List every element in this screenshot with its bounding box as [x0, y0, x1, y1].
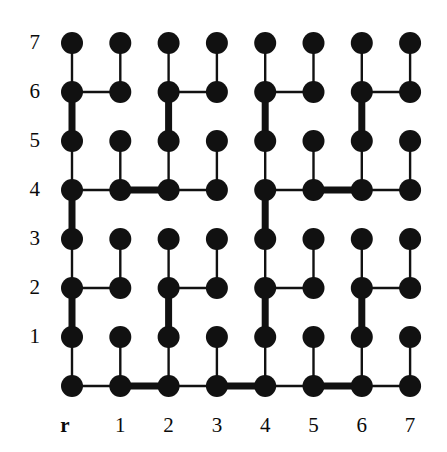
graph-node-c3-r2 [206, 277, 228, 299]
graph-node-c6-r5 [351, 130, 373, 152]
graph-node-c3-r1 [206, 326, 228, 348]
graph-node-c0-r4 [61, 179, 83, 201]
graph-node-c7-r2 [399, 277, 421, 299]
row-axis-label-1: 1 [18, 326, 40, 347]
graph-node-c0-r6 [61, 81, 83, 103]
row-axis-label-7: 7 [18, 32, 40, 53]
graph-node-c4-r0 [254, 375, 276, 397]
graph-node-c6-r4 [351, 179, 373, 201]
graph-node-c1-r5 [109, 130, 131, 152]
graph-node-c3-r3 [206, 228, 228, 250]
graph-node-c6-r7 [351, 32, 373, 54]
column-axis-label-1: 1 [107, 415, 133, 436]
column-axis-label-2: 2 [156, 415, 182, 436]
graph-node-c3-r7 [206, 32, 228, 54]
graph-node-c7-r4 [399, 179, 421, 201]
row-axis-label-5: 5 [18, 130, 40, 151]
column-axis-label-6: 6 [349, 415, 375, 436]
graph-node-c6-r3 [351, 228, 373, 250]
graph-node-c7-r3 [399, 228, 421, 250]
graph-node-c7-r7 [399, 32, 421, 54]
graph-node-c2-r0 [158, 375, 180, 397]
graph-node-c1-r6 [109, 81, 131, 103]
graph-node-c4-r6 [254, 81, 276, 103]
graph-node-c6-r6 [351, 81, 373, 103]
figure-root: 7654321 1234567 r [0, 0, 447, 452]
graph-node-c4-r1 [254, 326, 276, 348]
graph-node-c1-r7 [109, 32, 131, 54]
graph-node-c5-r1 [303, 326, 325, 348]
graph-node-c1-r0 [109, 375, 131, 397]
graph-node-c2-r5 [158, 130, 180, 152]
graph-node-c3-r0 [206, 375, 228, 397]
graph-node-c5-r5 [303, 130, 325, 152]
graph-node-c6-r2 [351, 277, 373, 299]
graph-node-c0-r0 [61, 375, 83, 397]
column-axis-label-3: 3 [204, 415, 230, 436]
graph-node-c0-r2 [61, 277, 83, 299]
graph-node-c2-r4 [158, 179, 180, 201]
graph-node-c4-r2 [254, 277, 276, 299]
graph-node-c3-r5 [206, 130, 228, 152]
graph-node-c2-r3 [158, 228, 180, 250]
graph-node-c0-r1 [61, 326, 83, 348]
grid-graph-canvas [0, 0, 447, 452]
graph-node-c0-r3 [61, 228, 83, 250]
row-axis-label-6: 6 [18, 81, 40, 102]
graph-node-c1-r3 [109, 228, 131, 250]
graph-node-c6-r1 [351, 326, 373, 348]
graph-node-c4-r3 [254, 228, 276, 250]
graph-node-c5-r2 [303, 277, 325, 299]
graph-node-c5-r7 [303, 32, 325, 54]
graph-node-c6-r0 [351, 375, 373, 397]
graph-node-c7-r1 [399, 326, 421, 348]
graph-node-c0-r5 [61, 130, 83, 152]
graph-node-c3-r4 [206, 179, 228, 201]
root-label-r: r [52, 415, 78, 436]
row-axis-label-4: 4 [18, 179, 40, 200]
graph-node-c7-r0 [399, 375, 421, 397]
graph-node-c0-r7 [61, 32, 83, 54]
graph-node-c7-r6 [399, 81, 421, 103]
graph-node-c1-r4 [109, 179, 131, 201]
graph-node-c7-r5 [399, 130, 421, 152]
graph-node-c5-r4 [303, 179, 325, 201]
row-axis-label-2: 2 [18, 277, 40, 298]
graph-node-c4-r7 [254, 32, 276, 54]
graph-node-c2-r1 [158, 326, 180, 348]
column-axis-label-7: 7 [397, 415, 423, 436]
graph-node-c1-r1 [109, 326, 131, 348]
graph-node-c1-r2 [109, 277, 131, 299]
graph-node-c4-r5 [254, 130, 276, 152]
column-axis-label-5: 5 [301, 415, 327, 436]
graph-node-c2-r6 [158, 81, 180, 103]
column-axis-label-4: 4 [252, 415, 278, 436]
graph-node-c3-r6 [206, 81, 228, 103]
graph-node-c5-r0 [303, 375, 325, 397]
graph-node-c2-r2 [158, 277, 180, 299]
graph-node-c4-r4 [254, 179, 276, 201]
row-axis-label-3: 3 [18, 228, 40, 249]
graph-node-c5-r3 [303, 228, 325, 250]
graph-node-c5-r6 [303, 81, 325, 103]
graph-node-c2-r7 [158, 32, 180, 54]
